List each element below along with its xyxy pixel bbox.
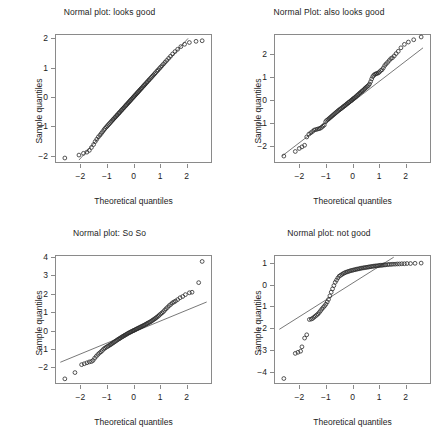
x-tick-label: 2 [184, 392, 189, 402]
x-tick-mark [379, 164, 380, 168]
x-tick-label: 1 [377, 392, 382, 402]
y-tick-label: 2 [0, 33, 48, 43]
x-tick-mark [379, 385, 380, 389]
x-tick-mark [187, 164, 188, 168]
x-tick-label: 0 [350, 171, 355, 181]
panel-top-left: Normal plot: looks good Sample quantiles… [0, 0, 219, 221]
x-tick-label: −2 [75, 392, 85, 402]
x-axis-label: Theoretical quantiles [274, 417, 431, 427]
x-axis-label: Theoretical quantiles [274, 196, 431, 206]
y-tick-label: −4 [219, 367, 267, 377]
x-tick-label: 1 [158, 392, 163, 402]
x-tick-label: 0 [350, 392, 355, 402]
y-axis-label: Sample quantiles [253, 78, 263, 143]
x-tick-label: −2 [294, 171, 304, 181]
plot-area [274, 255, 431, 384]
y-tick-label: 1 [0, 63, 48, 73]
x-tick-label: −1 [102, 392, 112, 402]
x-tick-mark [80, 385, 81, 389]
x-tick-label: −2 [294, 392, 304, 402]
x-tick-mark [299, 164, 300, 168]
panel-title: Normal plot: looks good [0, 7, 219, 17]
panel-bottom-right: Normal plot: not good Sample quantiles −… [219, 221, 439, 442]
y-tick-label: 2 [219, 49, 267, 59]
plot-area [55, 34, 212, 163]
y-tick-label: −2 [0, 151, 48, 161]
y-axis-label: Sample quantiles [34, 78, 44, 143]
x-axis-label: Theoretical quantiles [55, 196, 212, 206]
panel-title: Normal plot: not good [219, 228, 439, 238]
qq-scatter [55, 34, 212, 163]
y-tick-label: −2 [0, 362, 48, 372]
x-tick-label: −2 [75, 171, 85, 181]
x-tick-mark [80, 164, 81, 168]
panel-title: Normal plot: So So [0, 228, 219, 238]
x-tick-mark [187, 385, 188, 389]
x-tick-label: 1 [158, 171, 163, 181]
x-axis-label: Theoretical quantiles [55, 417, 212, 427]
qq-scatter [274, 255, 431, 384]
x-tick-mark [326, 385, 327, 389]
x-tick-mark [160, 385, 161, 389]
x-tick-mark [134, 164, 135, 168]
plot-area [55, 255, 212, 384]
x-tick-mark [134, 385, 135, 389]
x-tick-mark [107, 385, 108, 389]
x-tick-mark [353, 385, 354, 389]
y-tick-label: 4 [0, 252, 48, 262]
panel-bottom-left: Normal plot: So So Sample quantiles −2−1… [0, 221, 219, 442]
x-tick-label: 2 [403, 392, 408, 402]
x-tick-mark [406, 385, 407, 389]
x-tick-label: 2 [184, 171, 189, 181]
x-tick-mark [353, 164, 354, 168]
y-axis-label: Sample quantiles [34, 290, 44, 355]
x-tick-label: 1 [377, 171, 382, 181]
x-tick-label: 0 [131, 392, 136, 402]
x-tick-label: −1 [321, 392, 331, 402]
panel-title: Normal Plot: also looks good [219, 7, 439, 17]
x-tick-mark [107, 164, 108, 168]
x-tick-mark [406, 164, 407, 168]
x-tick-mark [160, 164, 161, 168]
x-tick-label: −1 [102, 171, 112, 181]
x-tick-label: 0 [131, 171, 136, 181]
x-tick-label: −1 [321, 171, 331, 181]
y-tick-label: 3 [0, 270, 48, 280]
y-tick-label: 0 [219, 280, 267, 290]
y-tick-label: 1 [219, 258, 267, 268]
panel-top-right: Normal Plot: also looks good Sample quan… [219, 0, 439, 221]
x-tick-mark [326, 164, 327, 168]
qq-scatter [274, 34, 431, 163]
qq-plot-figure: Normal plot: looks good Sample quantiles… [0, 0, 439, 442]
y-axis-label: Sample quantiles [253, 290, 263, 355]
x-tick-label: 2 [403, 171, 408, 181]
x-tick-mark [299, 385, 300, 389]
qq-scatter [55, 255, 212, 384]
plot-area [274, 34, 431, 163]
